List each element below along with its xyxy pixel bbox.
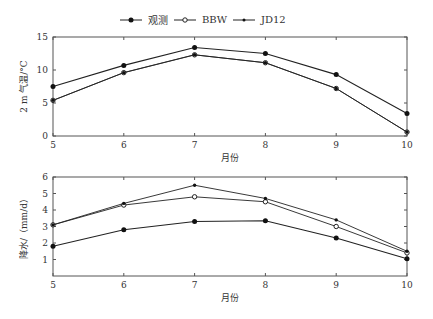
data-point (334, 72, 339, 77)
data-point (405, 250, 408, 253)
y-axis-label: 降水/（mm/d） (18, 194, 29, 259)
x-tick-label: 7 (192, 140, 198, 150)
data-point (405, 111, 410, 116)
data-point (51, 244, 56, 249)
data-point (405, 130, 408, 133)
x-tick-label: 5 (50, 140, 56, 150)
y-tick-label: 5 (42, 98, 48, 108)
x-tick-label: 6 (121, 280, 127, 290)
data-point (334, 224, 338, 228)
x-axis-label: 月份 (221, 292, 239, 303)
series-line-JD12 (53, 55, 407, 132)
series-line-JD12 (53, 185, 407, 251)
x-tick-label: 9 (333, 280, 339, 290)
data-point (192, 219, 197, 224)
data-point (263, 51, 268, 56)
y-axis-label: 2 m 气温/°C (18, 60, 29, 113)
x-tick-label: 10 (401, 140, 413, 150)
data-point (122, 202, 125, 205)
plot-area: 5678910051015月份2 m 气温/°C5678910123456月份降… (0, 0, 433, 319)
data-point (192, 195, 196, 199)
data-point (193, 184, 196, 187)
y-tick-label: 6 (42, 172, 48, 182)
series-line-BBW (53, 197, 407, 253)
x-axis-label: 月份 (221, 152, 239, 163)
y-tick-label: 4 (42, 205, 48, 215)
data-point (263, 218, 268, 223)
series-line-BBW (53, 55, 407, 132)
data-point (121, 227, 126, 232)
x-tick-label: 8 (263, 140, 269, 150)
figure: 观测 BBW JD12 5678910051015月份2 m 气温/°C5678… (0, 0, 433, 319)
y-tick-label: 3 (42, 222, 48, 232)
data-point (264, 197, 267, 200)
x-tick-label: 8 (263, 280, 269, 290)
data-point (51, 84, 56, 89)
data-point (122, 71, 125, 74)
data-point (335, 87, 338, 90)
y-tick-label: 1 (42, 255, 48, 265)
x-tick-label: 9 (333, 140, 339, 150)
series-line-观测 (53, 48, 407, 114)
data-point (263, 200, 267, 204)
data-point (51, 99, 54, 102)
data-point (264, 61, 267, 64)
x-tick-label: 5 (50, 280, 56, 290)
data-point (334, 236, 339, 241)
y-tick-label: 5 (42, 189, 48, 199)
data-point (51, 223, 54, 226)
y-tick-label: 15 (37, 32, 49, 42)
data-point (121, 63, 126, 68)
data-point (335, 218, 338, 221)
y-tick-label: 2 (42, 238, 48, 248)
x-tick-label: 10 (401, 280, 413, 290)
data-point (405, 256, 410, 261)
y-tick-label: 10 (37, 65, 49, 75)
x-tick-label: 6 (121, 140, 127, 150)
chart-panel-2: 5678910123456月份降水/（mm/d） (18, 172, 413, 303)
y-tick-label: 0 (42, 131, 48, 141)
axes-frame (53, 37, 407, 136)
data-point (193, 53, 196, 56)
x-tick-label: 7 (192, 280, 198, 290)
chart-panel-1: 5678910051015月份2 m 气温/°C (18, 32, 413, 163)
data-point (192, 45, 197, 50)
series-line-观测 (53, 221, 407, 259)
